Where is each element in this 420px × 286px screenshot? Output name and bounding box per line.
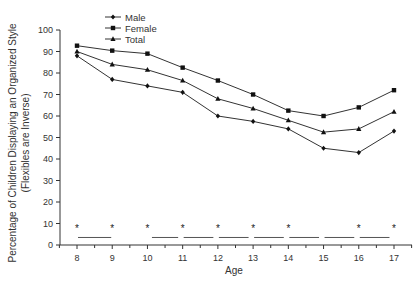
data-point: [392, 88, 396, 92]
significance-star: *: [286, 223, 290, 234]
x-tick-label: 11: [178, 253, 187, 263]
x-tick-label: 17: [389, 253, 399, 263]
x-tick-label: 13: [248, 253, 258, 263]
y-tick-label: 50: [43, 133, 53, 143]
y-tick-label: 100: [38, 25, 53, 35]
data-point: [391, 109, 396, 114]
y-tick-label: 70: [43, 90, 53, 100]
significance-star: *: [145, 223, 149, 234]
y-tick-label: 80: [43, 68, 53, 78]
line-chart: 0102030405060708090100891011121314151617…: [0, 0, 420, 286]
significance-star: *: [181, 223, 185, 234]
x-axis-title: Age: [225, 265, 243, 276]
data-point: [357, 150, 361, 155]
significance-star: *: [357, 223, 361, 234]
series-total: [74, 49, 396, 134]
data-point: [180, 65, 184, 69]
series-male: [75, 53, 396, 155]
data-point: [110, 77, 114, 82]
y-tick-label: 40: [43, 154, 53, 164]
data-point: [321, 146, 325, 151]
legend-label: Total: [125, 34, 145, 45]
x-tick-label: 8: [74, 253, 79, 263]
significance-markers: *********: [75, 223, 396, 238]
data-point: [251, 119, 255, 124]
data-point: [145, 51, 149, 55]
legend-item-female: Female: [105, 23, 157, 34]
data-point: [110, 48, 114, 52]
y-tick-label: 10: [43, 219, 53, 229]
legend-label: Female: [125, 23, 157, 34]
x-tick-label: 9: [110, 253, 115, 263]
series-group: [74, 43, 396, 155]
legend-item-male: Male: [105, 12, 146, 23]
y-tick-label: 90: [43, 47, 53, 57]
data-point: [75, 53, 79, 58]
significance-star: *: [110, 223, 114, 234]
x-tick-label: 12: [213, 253, 223, 263]
significance-star: *: [251, 223, 255, 234]
data-point: [392, 128, 396, 133]
data-point: [75, 43, 79, 47]
data-point: [180, 90, 184, 95]
significance-star: *: [392, 223, 396, 234]
data-point: [216, 113, 220, 118]
data-point: [286, 108, 290, 112]
y-tick-label: 20: [43, 197, 53, 207]
y-tick-label: 0: [48, 240, 53, 250]
data-point: [74, 49, 79, 54]
legend: MaleFemaleTotal: [105, 12, 157, 45]
y-axis-title: Percentage of Children Displaying an Org…: [7, 23, 18, 262]
data-point: [111, 14, 115, 19]
y-axis-subtitle: (Flexibles are Inverse): [20, 94, 31, 193]
data-point: [216, 78, 220, 82]
data-point: [357, 105, 361, 109]
data-point: [145, 83, 149, 88]
x-tick-label: 16: [354, 253, 364, 263]
series-line-total: [77, 52, 394, 133]
series-female: [75, 43, 396, 118]
legend-item-total: Total: [105, 34, 145, 45]
x-tick-label: 14: [283, 253, 293, 263]
series-line-male: [77, 56, 394, 153]
significance-star: *: [75, 223, 79, 234]
data-point: [286, 126, 290, 131]
data-point: [251, 92, 255, 96]
legend-label: Male: [125, 12, 146, 23]
y-tick-label: 60: [43, 111, 53, 121]
data-point: [321, 114, 325, 118]
significance-star: *: [216, 223, 220, 234]
series-line-female: [77, 46, 394, 116]
x-tick-label: 10: [142, 253, 152, 263]
data-point: [111, 26, 115, 30]
x-tick-label: 15: [319, 253, 329, 263]
y-tick-label: 30: [43, 176, 53, 186]
